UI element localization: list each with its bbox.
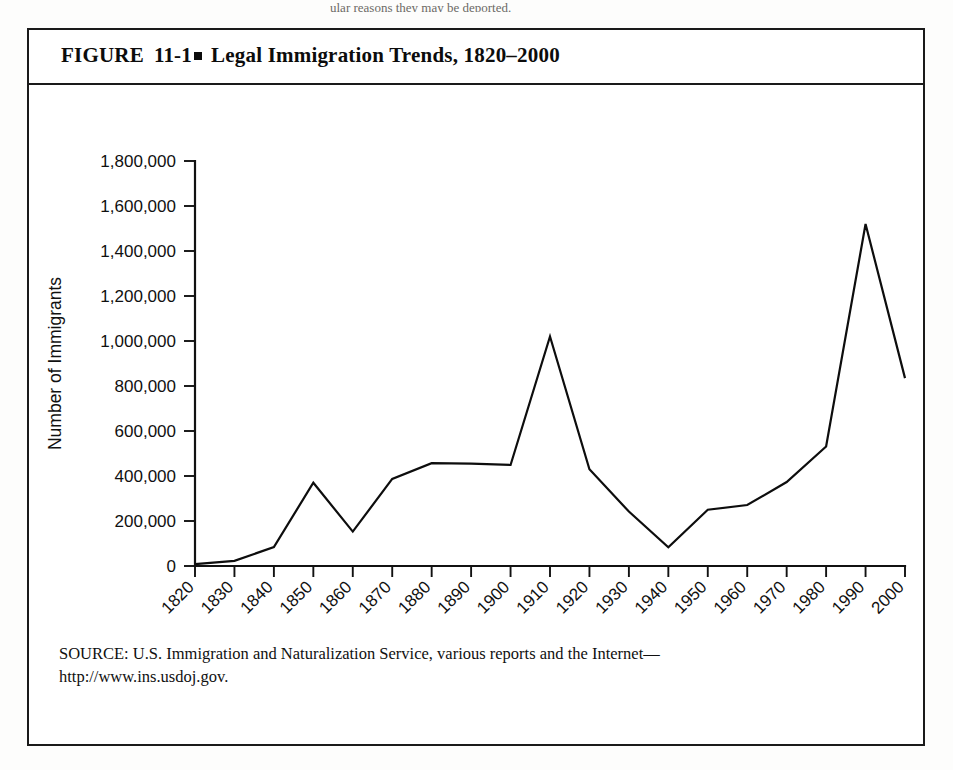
x-tick-label: 1880 bbox=[394, 577, 434, 617]
y-tick-label: 1,600,000 bbox=[100, 197, 176, 216]
x-tick-label: 1980 bbox=[789, 577, 829, 617]
y-axis-ticks bbox=[184, 161, 195, 566]
scanned-page: ular reasons they may be deported. FIGUR… bbox=[0, 0, 953, 770]
source-line-1: SOURCE: U.S. Immigration and Naturalizat… bbox=[59, 644, 660, 663]
x-tick-label: 1820 bbox=[158, 577, 198, 617]
x-tick-label: 1900 bbox=[473, 577, 513, 617]
x-axis-tick-labels: 1820183018401850186018701880189019001910… bbox=[158, 577, 908, 617]
y-tick-label: 0 bbox=[167, 557, 176, 576]
y-tick-label: 400,000 bbox=[115, 467, 176, 486]
x-tick-label: 1920 bbox=[552, 577, 592, 617]
x-axis-ticks bbox=[195, 566, 905, 577]
immigration-trends-line-chart: 0200,000400,000600,000800,0001,000,0001,… bbox=[29, 85, 927, 645]
source-line-2: http://www.ins.usdoj.gov. bbox=[59, 667, 228, 686]
y-tick-label: 600,000 bbox=[115, 422, 176, 441]
x-tick-label: 1860 bbox=[315, 577, 355, 617]
x-tick-label: 1870 bbox=[355, 577, 395, 617]
figure-title-text: Legal Immigration Trends, 1820–2000 bbox=[211, 43, 560, 67]
source-note: SOURCE: U.S. Immigration and Naturalizat… bbox=[59, 642, 879, 689]
x-tick-label: 1940 bbox=[631, 577, 671, 617]
x-tick-label: 1930 bbox=[592, 577, 632, 617]
axis-lines bbox=[195, 161, 905, 566]
x-tick-label: 1960 bbox=[710, 577, 750, 617]
y-axis-title: Number of Immigrants bbox=[45, 277, 65, 450]
y-tick-label: 200,000 bbox=[115, 512, 176, 531]
y-axis-tick-labels: 0200,000400,000600,000800,0001,000,0001,… bbox=[100, 152, 176, 576]
y-tick-label: 1,000,000 bbox=[100, 332, 176, 351]
x-tick-label: 1850 bbox=[276, 577, 316, 617]
figure-number: 11-1 bbox=[154, 43, 192, 67]
y-tick-label: 1,800,000 bbox=[100, 152, 176, 171]
figure-title-bar: FIGURE11-1Legal Immigration Trends, 1820… bbox=[29, 30, 923, 85]
x-tick-label: 1950 bbox=[670, 577, 710, 617]
x-tick-label: 1830 bbox=[197, 577, 237, 617]
y-tick-label: 1,400,000 bbox=[100, 242, 176, 261]
page-title: FIGURE11-1Legal Immigration Trends, 1820… bbox=[61, 43, 560, 68]
data-series-line bbox=[195, 224, 905, 564]
x-tick-label: 1840 bbox=[237, 577, 277, 617]
x-tick-label: 1910 bbox=[513, 577, 553, 617]
y-tick-label: 800,000 bbox=[115, 377, 176, 396]
chart-plot-area: 0200,000400,000600,000800,0001,000,0001,… bbox=[29, 85, 927, 645]
x-tick-label: 2000 bbox=[868, 577, 908, 617]
x-tick-label: 1970 bbox=[749, 577, 789, 617]
y-tick-label: 1,200,000 bbox=[100, 287, 176, 306]
figure-frame: FIGURE11-1Legal Immigration Trends, 1820… bbox=[27, 28, 925, 746]
page-running-text: ular reasons they may be deported. bbox=[330, 0, 890, 12]
figure-label: FIGURE bbox=[61, 43, 144, 67]
x-tick-label: 1890 bbox=[434, 577, 474, 617]
square-bullet-icon bbox=[194, 52, 202, 60]
x-tick-label: 1990 bbox=[828, 577, 868, 617]
